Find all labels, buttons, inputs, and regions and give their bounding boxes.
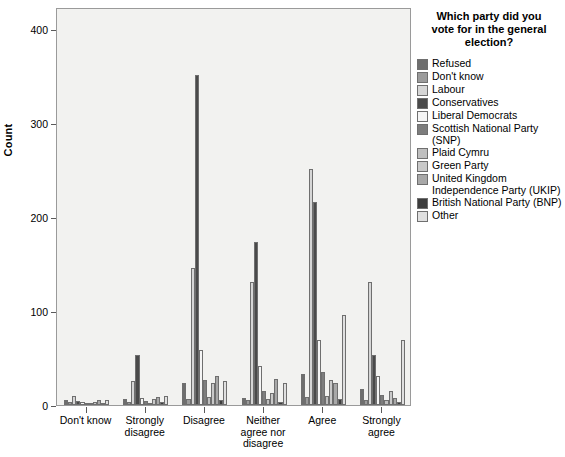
legend-entry[interactable]: Don't know [417, 71, 563, 83]
legend-entry[interactable]: Labour [417, 84, 563, 96]
bar[interactable] [164, 396, 168, 405]
x-tick-label: Stronglyagree [346, 415, 416, 438]
legend-entry[interactable]: Conservatives [417, 97, 563, 109]
legend-entry[interactable]: Plaid Cymru [417, 147, 563, 159]
x-tick-mark [381, 407, 382, 413]
legend-label: Plaid Cymru [432, 147, 489, 159]
bar[interactable] [223, 381, 227, 405]
x-tick-mark [86, 407, 87, 413]
legend-swatch [417, 72, 428, 83]
legend-entries: RefusedDon't knowLabourConservativesLibe… [417, 58, 563, 222]
legend-label: British National Party (BNP) [432, 197, 562, 209]
legend-swatch [417, 211, 428, 222]
legend-label: Labour [432, 84, 465, 96]
legend-entry[interactable]: Refused [417, 58, 563, 70]
x-tick-mark [263, 407, 264, 413]
y-tick-mark [51, 406, 56, 407]
legend-label: Liberal Democrats [432, 110, 517, 122]
legend-label: Other [432, 210, 458, 222]
legend-label: Conservatives [432, 97, 499, 109]
bar-group [353, 9, 412, 405]
legend-label: Refused [432, 58, 471, 70]
legend-swatch [417, 174, 428, 185]
legend-swatch [417, 59, 428, 70]
bar[interactable] [342, 315, 346, 405]
legend-swatch [417, 148, 428, 159]
bar-group [175, 9, 234, 405]
legend-entry[interactable]: Liberal Democrats [417, 110, 563, 122]
y-tick-label: 0 [14, 400, 48, 412]
legend-swatch [417, 85, 428, 96]
legend-title: Which party did youvote for in the gener… [417, 10, 561, 49]
bar-group [57, 9, 116, 405]
legend-swatch [417, 161, 428, 172]
bar-group [294, 9, 353, 405]
legend-entry[interactable]: Green Party [417, 160, 563, 172]
legend-entry[interactable]: Other [417, 210, 563, 222]
y-tick-label: 200 [14, 212, 48, 224]
plot-area [56, 8, 411, 406]
legend-label: Scottish National Party(SNP) [432, 123, 538, 146]
bars-layer [57, 9, 410, 405]
bar[interactable] [274, 379, 278, 405]
legend: Which party did youvote for in the gener… [417, 8, 563, 223]
legend-swatch [417, 111, 428, 122]
legend-swatch [417, 124, 428, 135]
bar[interactable] [105, 400, 109, 405]
bar-group [235, 9, 294, 405]
x-tick-mark [322, 407, 323, 413]
y-axis-title: Count [2, 100, 14, 180]
legend-swatch [417, 198, 428, 209]
legend-label: Green Party [432, 160, 489, 172]
x-tick-mark [204, 407, 205, 413]
legend-label: Don't know [432, 71, 484, 83]
chart-root: Count 0100200300400 Don't knowStronglydi… [0, 0, 565, 457]
legend-entry[interactable]: Scottish National Party(SNP) [417, 123, 563, 146]
legend-swatch [417, 98, 428, 109]
legend-entry[interactable]: United KingdomIndependence Party (UKIP) [417, 173, 563, 196]
legend-label: United KingdomIndependence Party (UKIP) [432, 173, 560, 196]
bar[interactable] [283, 383, 287, 405]
bar-group [116, 9, 175, 405]
y-tick-label: 400 [14, 24, 48, 36]
legend-entry[interactable]: British National Party (BNP) [417, 197, 563, 209]
y-tick-label: 300 [14, 118, 48, 130]
y-tick-label: 100 [14, 306, 48, 318]
x-tick-mark [145, 407, 146, 413]
bar[interactable] [401, 340, 405, 405]
